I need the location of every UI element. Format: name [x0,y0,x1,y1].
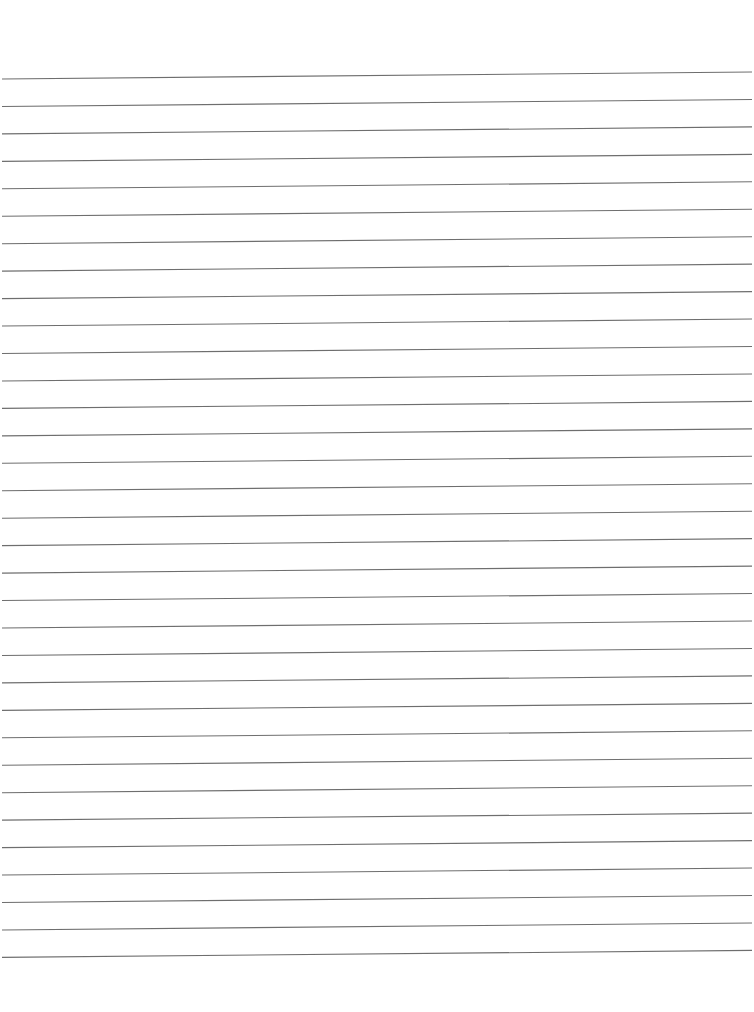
ruled-line [2,264,752,271]
ruled-line [2,758,752,765]
ruled-line [2,154,752,161]
ruled-line [2,786,752,793]
ruled-line [2,841,752,848]
ruled-line [2,511,752,518]
ruled-line [2,566,752,573]
ruled-line [2,539,752,546]
ruled-line [2,950,752,957]
ruled-line [2,347,752,354]
ruled-line [2,72,752,79]
ruled-line [2,182,752,189]
ruled-line [2,292,752,299]
ruled-line [2,209,752,216]
lined-paper-page [0,0,754,1012]
ruled-line [2,456,752,463]
ruled-line [2,594,752,601]
ruled-line [2,621,752,628]
ruled-line [2,813,752,820]
ruled-line [2,868,752,875]
ruled-line [2,896,752,903]
ruled-line [2,676,752,683]
ruled-line [2,648,752,655]
ruled-line [2,703,752,710]
ruled-line [2,99,752,106]
ruled-line [2,923,752,930]
ruled-line [2,401,752,408]
ruled-lines [0,0,754,1012]
ruled-line [2,484,752,491]
ruled-line [2,429,752,436]
ruled-line [2,731,752,738]
ruled-line [2,319,752,326]
ruled-line [2,127,752,134]
ruled-line [2,374,752,381]
ruled-line [2,237,752,244]
